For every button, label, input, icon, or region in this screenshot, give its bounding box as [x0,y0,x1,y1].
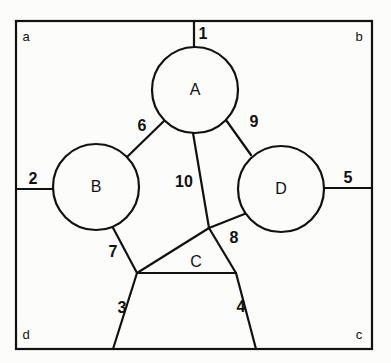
edge-label-6: 6 [138,118,147,134]
edge-label-2: 2 [29,171,38,187]
edge-label-7: 7 [109,244,118,260]
edge-label-1: 1 [199,26,208,42]
edge-label-9: 9 [250,114,259,130]
edge-9 [226,120,251,155]
graph-drawing [0,0,391,363]
node-label-D: D [275,181,287,197]
edge-label-10: 10 [175,174,193,190]
corner-label-a: a [22,30,29,43]
edge-label-8: 8 [230,230,239,246]
corner-label-d: d [22,328,29,341]
node-label-C: C [190,254,202,270]
node-label-A: A [190,82,201,98]
corner-label-c: c [356,328,363,341]
corner-label-b: b [355,30,362,43]
edge-label-3: 3 [118,300,127,316]
node-label-B: B [91,179,102,195]
edge-label-4: 4 [237,299,246,315]
node-shapes [53,47,324,273]
node-C [137,228,236,273]
edge-8 [209,213,247,228]
edge-label-5: 5 [344,170,353,186]
figure-canvas: ABDC12569107834abdc [0,0,391,363]
edge-10 [193,133,209,228]
